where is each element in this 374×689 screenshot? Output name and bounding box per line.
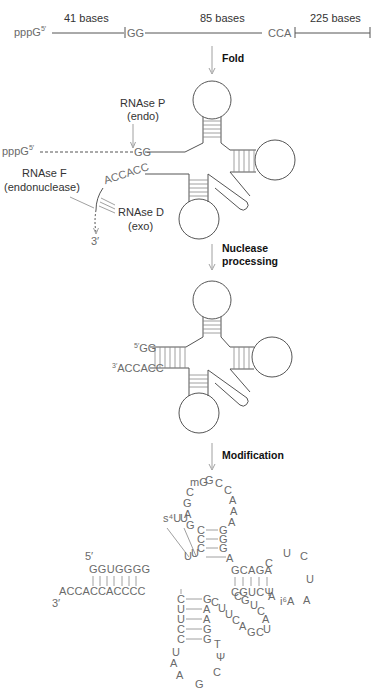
- svg-text:C: C: [215, 477, 223, 489]
- gg-label: GG: [134, 146, 151, 158]
- fold-label: Fold: [222, 52, 244, 64]
- ppp-g-label: pppG5′: [2, 144, 35, 157]
- svg-text:U: U: [180, 512, 188, 524]
- svg-text:A: A: [239, 620, 247, 632]
- svg-text:C: C: [265, 557, 273, 569]
- tail-label: ACCACC: [102, 160, 150, 186]
- five-prime-gg: 5′GG: [134, 342, 156, 354]
- segment-41-label: 41 bases: [64, 12, 109, 24]
- exo-arrows: [99, 198, 115, 213]
- top-stem-rungs: [203, 121, 221, 137]
- ppp-g-label: pppG5′: [14, 25, 47, 38]
- svg-text:A: A: [170, 657, 178, 669]
- rnase-d-type: (exo): [128, 220, 153, 232]
- svg-text:C: C: [257, 605, 265, 617]
- svg-text:C: C: [213, 666, 221, 678]
- mature-trna: mG G C C G A G C A A A C C C G G G s⁴U U…: [52, 474, 314, 689]
- modification-step: Modification: [209, 443, 284, 470]
- gg-label: GG: [127, 27, 144, 39]
- svg-text:A: A: [268, 590, 276, 602]
- cca-label: CCA: [268, 27, 292, 39]
- svg-text:A: A: [226, 552, 234, 564]
- svg-text:A: A: [228, 516, 236, 528]
- svg-text:U: U: [250, 599, 258, 611]
- svg-text:Ψ: Ψ: [216, 651, 225, 663]
- rnase-f-label: RNAse F: [22, 167, 67, 179]
- processing-label: processing: [222, 255, 278, 267]
- rnase-p-type: (endo): [127, 110, 159, 122]
- svg-text:G: G: [205, 474, 214, 486]
- svg-text:C: C: [234, 590, 242, 602]
- fold-step: Fold: [209, 46, 244, 74]
- mature-three-prime: 3′: [52, 597, 60, 609]
- nuclease-step: Nuclease processing: [209, 242, 278, 270]
- rnase-d-label: RNAse D: [118, 206, 164, 218]
- svg-text:G: G: [195, 678, 204, 689]
- segment-85-label: 85 bases: [200, 12, 245, 24]
- acceptor-bottom: ACCACCACCCC: [59, 585, 146, 597]
- svg-text:G: G: [241, 594, 250, 606]
- svg-text:U: U: [191, 547, 199, 559]
- acceptor-top: GGUGGGG: [89, 563, 150, 575]
- trna-processing-diagram: 41 bases 85 bases 225 bases pppG5′ GG CC…: [0, 0, 374, 689]
- svg-text:A: A: [303, 594, 311, 606]
- mature-five-prime: 5′: [85, 550, 93, 562]
- rnase-p-label: RNAse P: [120, 97, 165, 109]
- nuclease-label: Nuclease: [222, 242, 268, 254]
- svg-text:G: G: [247, 626, 256, 638]
- svg-text:U: U: [283, 547, 291, 559]
- svg-text:A: A: [176, 669, 184, 681]
- precursor-strand: 41 bases 85 bases 225 bases pppG5′ GG CC…: [14, 12, 370, 39]
- svg-text:T: T: [214, 638, 221, 650]
- rnase-f-type: (endonuclease): [4, 181, 80, 193]
- three-prime-label: 3′: [91, 235, 99, 247]
- svg-text:i⁶A: i⁶A: [280, 595, 295, 607]
- three-prime-tail: 3′ACCACC: [112, 362, 164, 374]
- svg-text:G: G: [203, 633, 212, 645]
- svg-text:U: U: [306, 573, 314, 585]
- arrow-icon: [70, 197, 94, 208]
- folded-precursor: RNAse P (endo) pppG5′ GG ACCACC RNAse F …: [2, 81, 295, 247]
- processed-trna: 5′GG 3′ACCACC: [112, 281, 292, 433]
- segment-225-label: 225 bases: [310, 12, 361, 24]
- modification-label: Modification: [222, 449, 284, 461]
- svg-text:C: C: [177, 633, 185, 645]
- s4u-label: s⁴U: [163, 512, 181, 524]
- svg-text:C: C: [300, 550, 308, 562]
